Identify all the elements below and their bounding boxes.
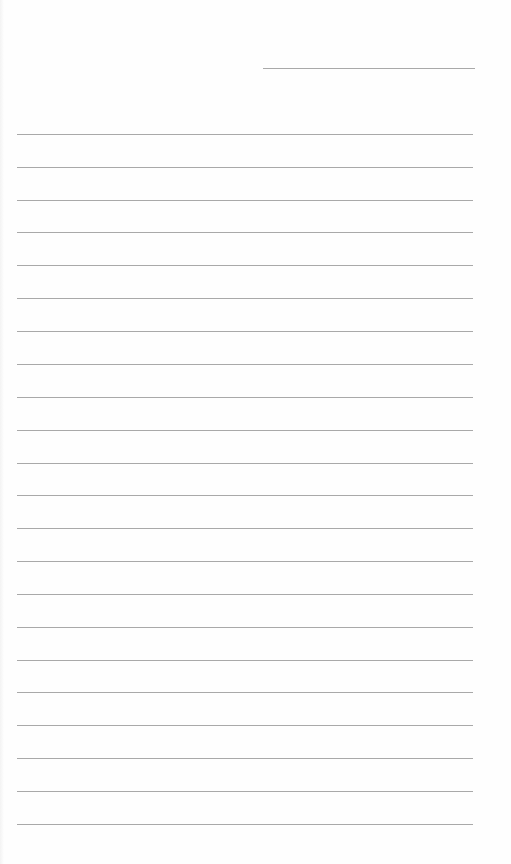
writing-line xyxy=(17,725,473,726)
writing-line xyxy=(17,495,473,496)
writing-line xyxy=(17,298,473,299)
writing-line xyxy=(17,397,473,398)
writing-line xyxy=(17,200,473,201)
writing-line xyxy=(17,561,473,562)
writing-line xyxy=(17,364,473,365)
writing-line xyxy=(17,331,473,332)
writing-line xyxy=(17,528,473,529)
writing-line xyxy=(17,430,473,431)
writing-line xyxy=(17,627,473,628)
writing-line xyxy=(17,824,473,825)
writing-line xyxy=(17,167,473,168)
writing-line xyxy=(17,134,473,135)
writing-line xyxy=(17,660,473,661)
writing-line xyxy=(17,232,473,233)
writing-line xyxy=(17,758,473,759)
lined-paper-page xyxy=(0,0,511,864)
writing-line xyxy=(17,692,473,693)
writing-line xyxy=(17,265,473,266)
header-name-date-line xyxy=(263,68,475,69)
page-edge-shadow xyxy=(0,0,4,864)
writing-line xyxy=(17,594,473,595)
writing-line xyxy=(17,791,473,792)
writing-line xyxy=(17,463,473,464)
